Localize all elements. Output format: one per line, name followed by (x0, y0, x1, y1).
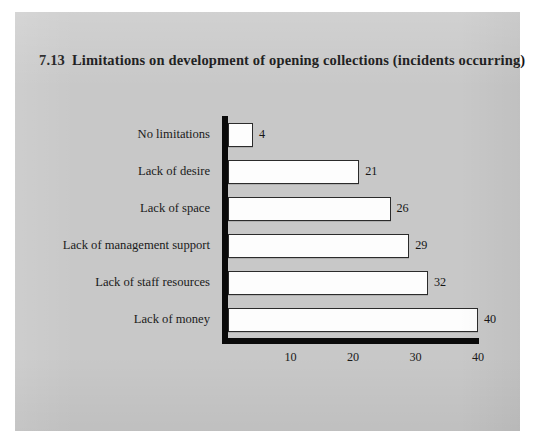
chart-panel: 7.13Limitations on development of openin… (15, 12, 520, 431)
x-tick-label: 30 (409, 350, 421, 365)
x-axis-ticks: 10 20 30 40 (15, 350, 520, 370)
bar-group: 32 (228, 271, 446, 295)
x-tick-label: 20 (347, 350, 359, 365)
bar-value-label: 40 (484, 313, 496, 325)
bar[interactable] (228, 234, 409, 258)
bar-group: 40 (228, 308, 496, 332)
bar-row: Lack of money 40 (15, 301, 520, 338)
x-axis-line (222, 338, 479, 344)
bar-value-label: 32 (434, 276, 446, 288)
bar-value-label: 21 (365, 165, 377, 177)
bar-row: Lack of management support 29 (15, 227, 520, 264)
bar-row: Lack of desire 21 (15, 153, 520, 190)
bar-group: 29 (228, 234, 427, 258)
bar-row: Lack of space 26 (15, 190, 520, 227)
bar-group: 26 (228, 197, 409, 221)
category-label: Lack of staff resources (0, 275, 210, 290)
bar-value-label: 29 (415, 239, 427, 251)
category-label: Lack of desire (0, 164, 210, 179)
x-tick-label: 10 (284, 350, 296, 365)
category-label: Lack of space (0, 201, 210, 216)
bar[interactable] (228, 160, 359, 184)
bar[interactable] (228, 271, 428, 295)
bar-row: No limitations 4 (15, 116, 520, 153)
bar-group: 4 (228, 123, 265, 147)
bar-value-label: 4 (259, 128, 265, 140)
x-tick-label: 40 (472, 350, 484, 365)
bar[interactable] (228, 308, 478, 332)
plot-area: No limitations 4 Lack of desire 21 Lack … (15, 12, 520, 431)
figure-root: 7.13Limitations on development of openin… (0, 0, 536, 448)
category-label: No limitations (0, 127, 210, 142)
bar[interactable] (228, 123, 253, 147)
category-label: Lack of money (0, 312, 210, 327)
category-label: Lack of management support (0, 238, 210, 253)
bar-value-label: 26 (397, 202, 409, 214)
bar-group: 21 (228, 160, 377, 184)
bar[interactable] (228, 197, 391, 221)
bar-rows: No limitations 4 Lack of desire 21 Lack … (15, 116, 520, 338)
bar-row: Lack of staff resources 32 (15, 264, 520, 301)
